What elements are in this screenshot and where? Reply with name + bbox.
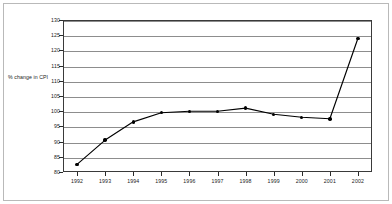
data-point [75, 163, 78, 166]
y-axis-tick-label: 115 [34, 63, 60, 69]
y-axis-tick-label: 130 [34, 17, 60, 23]
x-axis-tick [358, 172, 359, 176]
x-axis-tick [77, 172, 78, 176]
plot-wrapper: % change in CPI 808590951001051101151201… [0, 0, 392, 204]
data-point [132, 120, 135, 123]
data-point [328, 117, 331, 120]
x-axis-tick [274, 172, 275, 176]
data-point [356, 37, 359, 40]
x-axis-tick [330, 172, 331, 176]
x-axis-tick [218, 172, 219, 176]
x-axis-tick [246, 172, 247, 176]
x-axis-tick [161, 172, 162, 176]
x-axis-tick [189, 172, 190, 176]
x-axis-tick-label: 2002 [341, 178, 375, 184]
data-point [216, 110, 219, 113]
y-axis-tick-label: 105 [34, 93, 60, 99]
y-axis-tick-label: 120 [34, 47, 60, 53]
y-axis-tick-label: 125 [34, 32, 60, 38]
y-axis-tick-label: 110 [34, 78, 60, 84]
x-axis-tick [133, 172, 134, 176]
chart-figure: % change in CPI 808590951001051101151201… [0, 0, 392, 204]
series-line [63, 20, 372, 172]
x-axis-tick [302, 172, 303, 176]
y-axis-tick-label: 90 [34, 139, 60, 145]
data-point [188, 110, 191, 113]
data-point [103, 138, 106, 141]
y-axis-tick-label: 100 [34, 108, 60, 114]
series-polyline [77, 38, 358, 164]
y-axis-tick-label: 95 [34, 123, 60, 129]
x-axis-tick [105, 172, 106, 176]
y-axis-tick-label: 85 [34, 154, 60, 160]
y-axis-tick-label: 80 [34, 169, 60, 175]
